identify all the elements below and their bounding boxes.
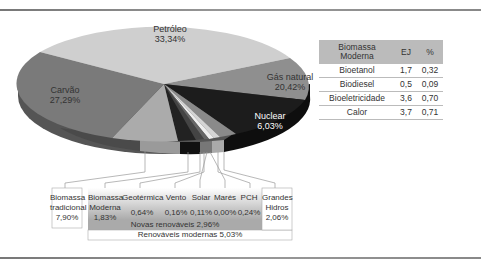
cell: Biodiesel (319, 78, 395, 92)
label-renovaveis-modernas: Renováveis modernas 5,03% (88, 230, 292, 240)
header-biomassa: BiomassaModerna (319, 40, 395, 64)
label-nuclear-pct: 6,03% (250, 121, 290, 131)
cell: 3,6 (395, 92, 417, 106)
cell: Bioeletricidade (319, 92, 395, 106)
geo-name: Geotérmica (122, 193, 162, 203)
label-nuclear: Nuclear 6,03% (250, 111, 290, 131)
header-pct: % (417, 40, 443, 64)
bio-mod-l2: Moderna (88, 203, 122, 213)
header-ej: EJ (395, 40, 417, 64)
label-nuclear-name: Nuclear (250, 111, 290, 121)
hidros-l1: Grandes (262, 193, 292, 203)
pch-name: PCH (236, 193, 262, 203)
h2: Moderna (340, 51, 374, 61)
solar-name: Solar (188, 193, 214, 203)
cell: 3,7 (395, 106, 417, 120)
table-row: Bioeletricidade3,60,70 (319, 92, 443, 106)
cell: 0,71 (417, 106, 443, 120)
table-row: Bioetanol1,70,32 (319, 64, 443, 78)
bio-trad-pct: 7,90% (50, 213, 84, 223)
vento-name: Vento (162, 193, 190, 203)
label-solar: Solar 0,11% (188, 193, 214, 218)
hidros-pct: 2,06% (262, 213, 292, 223)
table-row: Calor3,70,71 (319, 106, 443, 120)
label-gas-name: Gás natural (260, 72, 320, 82)
hidros-l2: Hidros (262, 203, 292, 213)
label-pch: PCH 0,24% (236, 193, 262, 218)
vento-pct: 0,16% (162, 208, 190, 218)
cell: 0,09 (417, 78, 443, 92)
cell: 0,32 (417, 64, 443, 78)
label-carvao-pct: 27,29% (40, 95, 90, 105)
label-carvao: Carvão 27,29% (40, 85, 90, 105)
bio-mod-l1: Biomassa (88, 193, 122, 203)
label-grandes-hidros: Grandes Hidros 2,06% (262, 193, 292, 223)
label-gas-natural: Gás natural 20,42% (260, 72, 320, 92)
table-row: Biodiesel0,50,09 (319, 78, 443, 92)
label-petroleo: Petróleo 33,34% (140, 24, 200, 44)
cell: 0,5 (395, 78, 417, 92)
label-biomassa-moderna: Biomassa Moderna 1,83% (88, 193, 122, 223)
cell: 0,70 (417, 92, 443, 106)
table-header: BiomassaModerna EJ % (319, 40, 443, 64)
label-biomassa-tradicional: Biomassa tradicional 7,90% (50, 193, 84, 223)
label-petroleo-name: Petróleo (140, 24, 200, 34)
label-novas-renovaveis: Novas renováveis 2,96% (88, 220, 262, 230)
mares-name: Marés (212, 193, 238, 203)
bio-trad-l2: tradicional (50, 203, 84, 213)
label-geotermica: Geotérmica 0,64% (122, 193, 162, 218)
cell: Bioetanol (319, 64, 395, 78)
solar-pct: 0,11% (188, 208, 214, 218)
label-petroleo-pct: 33,34% (140, 34, 200, 44)
bio-trad-l1: Biomassa (50, 193, 84, 203)
cell: 1,7 (395, 64, 417, 78)
label-mares: Marés 0,00% (212, 193, 238, 218)
label-gas-pct: 20,42% (260, 82, 320, 92)
cell: Calor (319, 106, 395, 120)
geo-pct: 0,64% (122, 208, 162, 218)
label-carvao-name: Carvão (40, 85, 90, 95)
label-vento: Vento 0,16% (162, 193, 190, 218)
mares-pct: 0,00% (212, 208, 238, 218)
pch-pct: 0,24% (236, 208, 262, 218)
biomassa-table: BiomassaModerna EJ % Bioetanol1,70,32 Bi… (319, 40, 443, 120)
